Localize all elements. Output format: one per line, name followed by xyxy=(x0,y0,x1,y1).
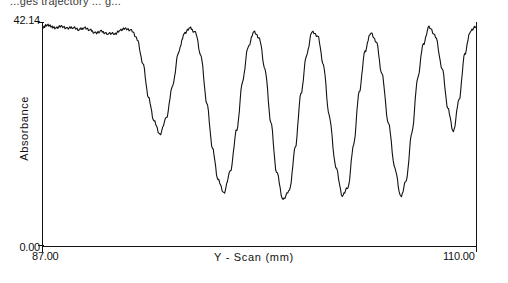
chart-figure: ...ges trajectory ... g... Absorbance 42… xyxy=(0,0,508,283)
clipped-caption-text: ...ges trajectory ... g... xyxy=(10,0,340,7)
plot-area: 42.14 0.00 xyxy=(42,22,477,247)
absorbance-trace xyxy=(43,22,476,246)
x-axis-title: Y - Scan (mm) xyxy=(0,251,508,263)
y-axis-tick-label-max: 42.14 xyxy=(13,14,40,26)
y-axis-title: Absorbance xyxy=(18,96,30,161)
